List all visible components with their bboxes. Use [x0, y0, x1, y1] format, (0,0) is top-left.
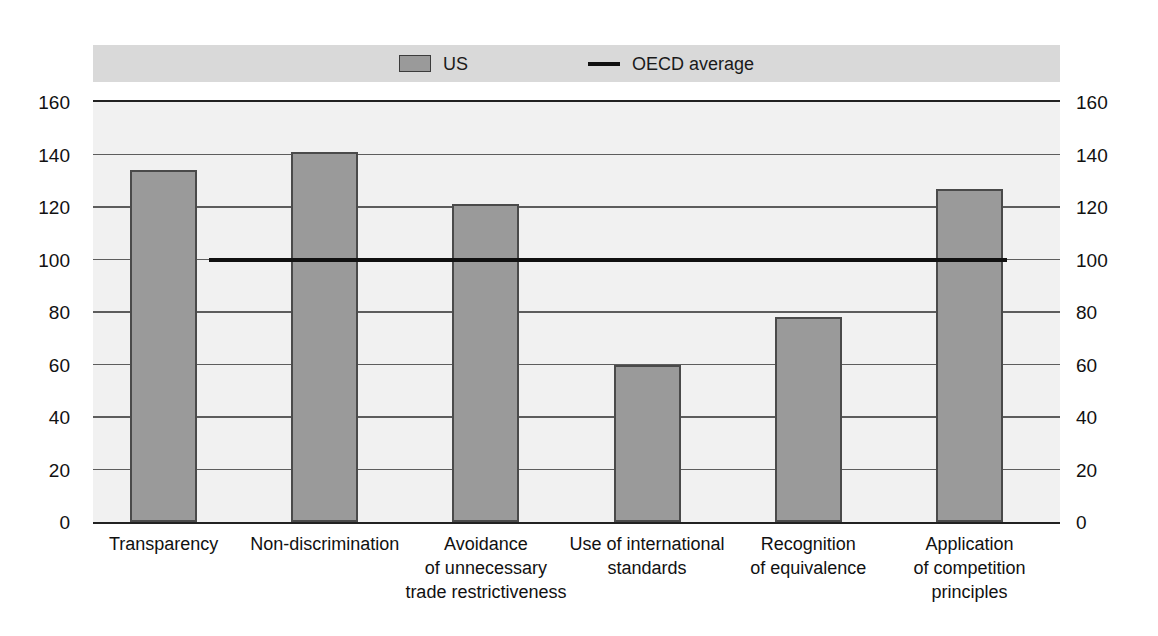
- y-tick-left-120: 120: [0, 198, 70, 217]
- y-tick-right-0: 0: [1076, 513, 1146, 532]
- bar: [936, 189, 1003, 522]
- y-tick-left-20: 20: [0, 461, 70, 480]
- y-tick-right-160: 160: [1076, 93, 1146, 112]
- bar: [614, 365, 681, 523]
- category-label-line: trade restrictiveness: [376, 581, 596, 605]
- legend-item-us: US: [399, 55, 468, 73]
- legend-swatch-line-icon: [588, 62, 620, 66]
- y-tick-right-120: 120: [1076, 198, 1146, 217]
- y-tick-right-80: 80: [1076, 303, 1146, 322]
- y-tick-left-100: 100: [0, 251, 70, 270]
- category-label: Applicationof competitionprinciples: [859, 533, 1079, 604]
- category-label-line: principles: [859, 581, 1079, 605]
- y-tick-left-60: 60: [0, 356, 70, 375]
- chart-figure: US OECD average 020406080100120140160 02…: [0, 0, 1158, 636]
- category-label-line: of competition: [859, 557, 1079, 581]
- oecd-average-line: [209, 258, 1008, 262]
- y-tick-right-40: 40: [1076, 408, 1146, 427]
- y-tick-left-140: 140: [0, 146, 70, 165]
- y-tick-left-0: 0: [0, 513, 70, 532]
- bar: [291, 152, 358, 522]
- legend-label-us: US: [443, 55, 468, 73]
- bar: [452, 204, 519, 522]
- y-tick-left-80: 80: [0, 303, 70, 322]
- category-label-line: Application: [859, 533, 1079, 557]
- y-tick-right-100: 100: [1076, 251, 1146, 270]
- plot-area: [93, 102, 1060, 522]
- legend-item-oecd-average: OECD average: [588, 55, 754, 73]
- y-tick-left-40: 40: [0, 408, 70, 427]
- y-tick-right-20: 20: [1076, 461, 1146, 480]
- bar: [775, 317, 842, 522]
- legend-label-oecd-average: OECD average: [632, 55, 754, 73]
- y-tick-right-140: 140: [1076, 146, 1146, 165]
- y-tick-left-160: 160: [0, 93, 70, 112]
- bar: [130, 170, 197, 522]
- y-tick-right-60: 60: [1076, 356, 1146, 375]
- chart-legend: US OECD average: [93, 45, 1060, 82]
- bars-layer: [93, 102, 1060, 522]
- legend-swatch-square-icon: [399, 55, 431, 72]
